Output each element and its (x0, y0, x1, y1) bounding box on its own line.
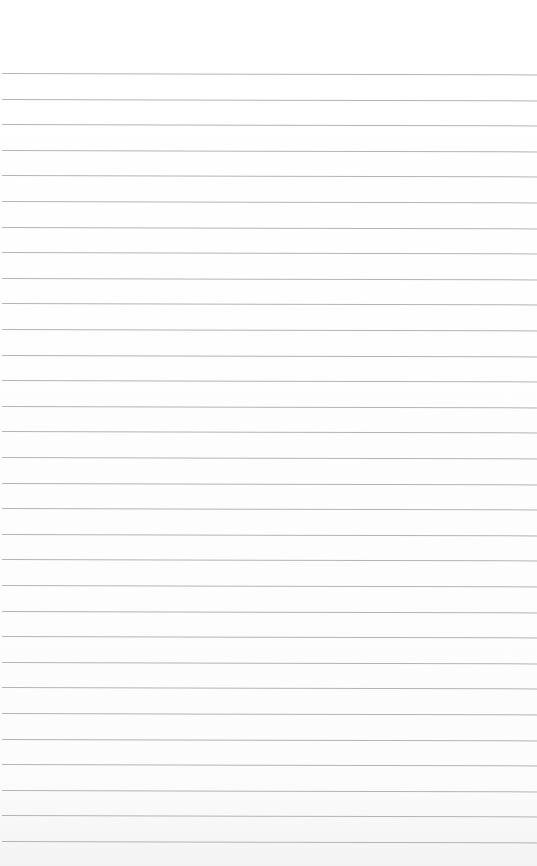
ruled-line (2, 252, 537, 254)
ruled-line (2, 150, 537, 152)
ruled-line (2, 508, 537, 510)
ruled-line (2, 841, 537, 843)
ruled-line (2, 815, 537, 817)
ruled-line (2, 790, 537, 792)
ruled-line (2, 534, 537, 536)
ruled-line (2, 380, 537, 382)
ruled-line (2, 431, 537, 433)
ruled-line (2, 636, 537, 638)
lined-paper-sheet (0, 0, 537, 866)
ruled-line (2, 662, 537, 664)
ruled-line (2, 73, 537, 75)
ruled-line (2, 483, 537, 485)
ruled-line (2, 687, 537, 689)
ruled-line (2, 201, 537, 203)
ruled-line (2, 303, 537, 305)
ruled-line (2, 713, 537, 715)
ruled-line (2, 329, 537, 331)
ruled-line (2, 124, 537, 126)
ruled-line (2, 278, 537, 280)
ruled-line (2, 764, 537, 766)
ruled-line (2, 457, 537, 459)
ruled-line (2, 99, 537, 101)
ruled-line (2, 739, 537, 741)
ruled-line (2, 406, 537, 408)
ruled-line (2, 611, 537, 613)
ruled-line (2, 585, 537, 587)
ruled-line (2, 175, 537, 177)
ruled-line (2, 355, 537, 357)
ruled-line (2, 227, 537, 229)
ruled-line (2, 559, 537, 561)
